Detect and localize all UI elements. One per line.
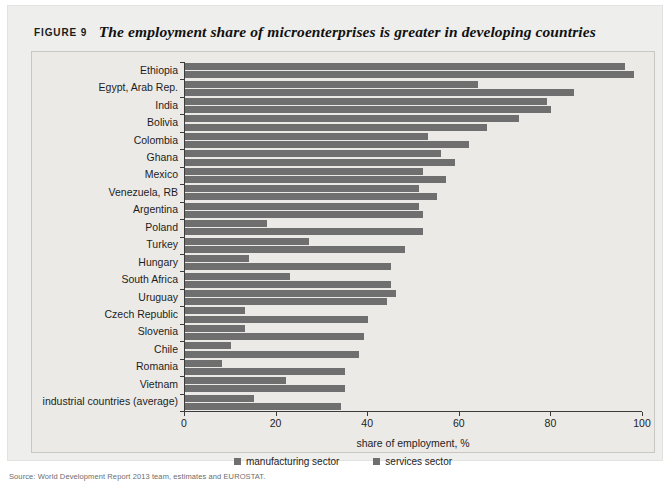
x-axis-tick (459, 412, 460, 416)
bar-services (185, 228, 423, 235)
legend-label-manufacturing: manufacturing sector (246, 456, 339, 467)
bar-manufacturing (185, 342, 231, 349)
category-label: Mexico (145, 169, 178, 180)
source-note: Source: World Development Report 2013 te… (9, 472, 265, 481)
bar-services (185, 71, 634, 78)
x-axis-tick-label: 80 (545, 417, 557, 429)
legend-swatch-services-icon (373, 458, 380, 465)
bar-manufacturing (185, 273, 290, 280)
chart-plot-frame: EthiopiaEgypt, Arab Rep.IndiaBoliviaColo… (31, 51, 655, 453)
y-axis-tick (180, 79, 184, 80)
bar-services (185, 193, 437, 200)
category-label: industrial countries (average) (43, 396, 178, 407)
bar-services (185, 298, 387, 305)
y-axis-tick (180, 254, 184, 255)
y-axis-line (184, 62, 185, 411)
y-axis-tick (180, 341, 184, 342)
category-label: Uruguay (138, 291, 178, 302)
category-label: Chile (154, 344, 178, 355)
y-axis-tick (180, 359, 184, 360)
legend-swatch-manufacturing-icon (234, 458, 241, 465)
y-axis-tick (180, 149, 184, 150)
y-axis-tick (180, 376, 184, 377)
category-label: Ghana (146, 152, 178, 163)
y-axis-tick (180, 306, 184, 307)
y-axis-tick (180, 324, 184, 325)
bar-services (185, 141, 469, 148)
bar-manufacturing (185, 290, 396, 297)
x-axis-tick-label: 60 (453, 417, 465, 429)
y-axis-tick (180, 237, 184, 238)
category-label: Turkey (146, 239, 178, 250)
x-axis-line (184, 411, 642, 412)
chart-plot-area: EthiopiaEgypt, Arab Rep.IndiaBoliviaColo… (184, 62, 642, 411)
x-axis-tick-label: 100 (633, 417, 651, 429)
y-axis-tick (180, 132, 184, 133)
category-label: Hungary (138, 256, 178, 267)
bar-services (185, 159, 455, 166)
legend-label-services: services sector (385, 456, 452, 467)
bar-manufacturing (185, 377, 286, 384)
bar-manufacturing (185, 203, 419, 210)
figure-number-label: FIGURE 9 (34, 27, 87, 38)
y-axis-tick (180, 411, 184, 412)
x-axis-tick-label: 0 (181, 417, 187, 429)
chart-legend: manufacturing sector services sector (32, 456, 654, 467)
bar-manufacturing (185, 395, 254, 402)
category-label: South Africa (121, 274, 178, 285)
x-axis-title: share of employment, % (184, 437, 642, 449)
bar-manufacturing (185, 325, 245, 332)
figure-title: FIGURE 9 The employment share of microen… (34, 23, 634, 45)
bar-services (185, 351, 359, 358)
bar-manufacturing (185, 220, 267, 227)
bar-services (185, 106, 551, 113)
bar-services (185, 246, 405, 253)
bar-manufacturing (185, 63, 625, 70)
y-axis-tick (180, 271, 184, 272)
category-label: Colombia (134, 134, 178, 145)
bar-services (185, 368, 345, 375)
y-axis-tick (180, 97, 184, 98)
bar-manufacturing (185, 133, 428, 140)
bar-manufacturing (185, 238, 309, 245)
bar-services (185, 316, 368, 323)
y-axis-tick (180, 62, 184, 63)
category-label: Bolivia (147, 117, 178, 128)
category-label: Argentina (133, 204, 178, 215)
y-axis-tick (180, 394, 184, 395)
category-label: India (155, 99, 178, 110)
category-label: Slovenia (138, 326, 178, 337)
bar-services (185, 281, 391, 288)
page-title: The employment share of microenterprises… (99, 23, 596, 40)
legend-item-services[interactable]: services sector (373, 456, 452, 467)
bar-services (185, 211, 423, 218)
category-label: Egypt, Arab Rep. (99, 82, 178, 93)
bar-services (185, 403, 341, 410)
legend-item-manufacturing[interactable]: manufacturing sector (234, 456, 339, 467)
bar-services (185, 385, 345, 392)
category-label: Venezuela, RB (109, 187, 178, 198)
x-axis-tick (367, 412, 368, 416)
bar-manufacturing (185, 150, 441, 157)
category-label: Poland (145, 222, 178, 233)
figure-card: FIGURE 9 The employment share of microen… (8, 6, 662, 460)
bar-manufacturing (185, 115, 519, 122)
bar-manufacturing (185, 307, 245, 314)
x-axis-tick (550, 412, 551, 416)
category-label: Czech Republic (104, 309, 178, 320)
bar-manufacturing (185, 98, 547, 105)
y-axis-tick (180, 184, 184, 185)
x-axis-tick (276, 412, 277, 416)
bar-manufacturing (185, 360, 222, 367)
y-axis-tick (180, 167, 184, 168)
y-axis-tick (180, 114, 184, 115)
bar-manufacturing (185, 81, 478, 88)
bar-services (185, 89, 574, 96)
bar-services (185, 176, 446, 183)
bar-services (185, 124, 487, 131)
bar-services (185, 263, 391, 270)
y-axis-tick (180, 219, 184, 220)
x-axis-tick-label: 40 (361, 417, 373, 429)
bar-services (185, 333, 364, 340)
x-axis-tick (184, 412, 185, 416)
